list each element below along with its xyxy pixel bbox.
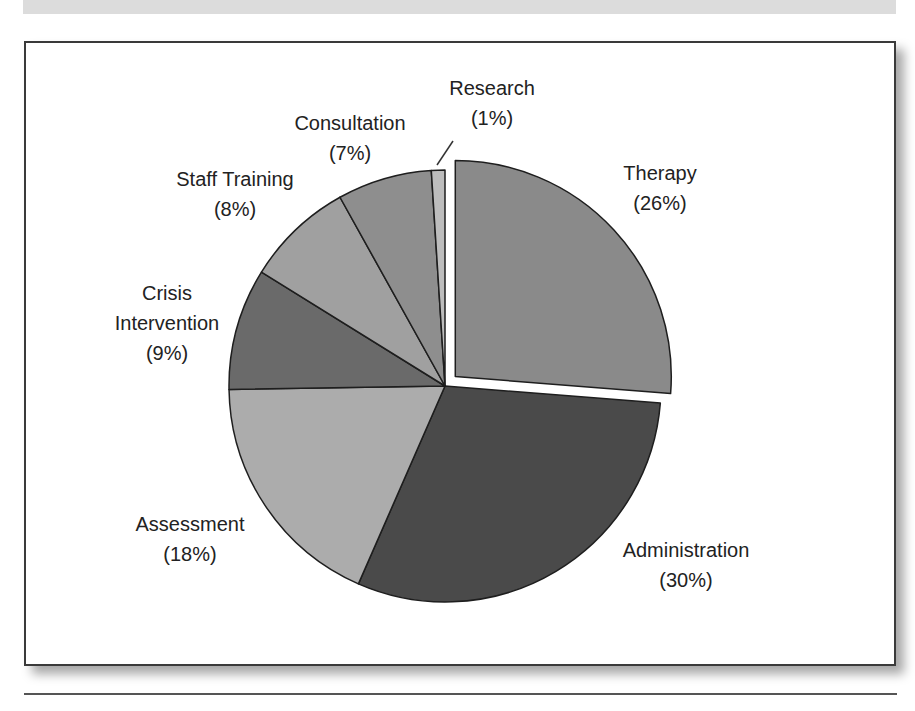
- label-consultation-pct: (7%): [329, 142, 371, 164]
- label-administration: Administration: [623, 539, 750, 561]
- label-crisis-2: Intervention: [115, 312, 220, 334]
- label-research-pct: (1%): [471, 107, 513, 129]
- pie-slices: [229, 161, 671, 602]
- label-therapy-pct: (26%): [633, 192, 686, 214]
- label-therapy: Therapy: [623, 162, 696, 184]
- label-staff-training-pct: (8%): [214, 198, 256, 220]
- label-consultation: Consultation: [294, 112, 405, 134]
- label-assessment-pct: (18%): [163, 543, 216, 565]
- research-leader-line: [437, 141, 453, 165]
- label-crisis-pct: (9%): [146, 342, 188, 364]
- label-research: Research: [449, 77, 535, 99]
- label-administration-pct: (30%): [659, 569, 712, 591]
- label-crisis-1: Crisis: [142, 282, 192, 304]
- label-assessment: Assessment: [136, 513, 245, 535]
- label-staff-training: Staff Training: [176, 168, 293, 190]
- pie-chart: Therapy (26%) Administration (30%) Asses…: [0, 0, 915, 711]
